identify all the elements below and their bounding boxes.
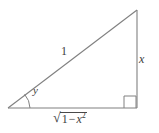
radicand-one: 1 [62, 112, 68, 126]
radicand-expression: 1−x2 [60, 112, 87, 127]
hypotenuse-label: 1 [61, 45, 67, 57]
right-angle-marker-icon [124, 96, 136, 108]
angle-arc [25, 94, 30, 108]
right-triangle-figure: 1 x y √ 1−x2 [0, 0, 159, 133]
triangle-hypotenuse-line [8, 10, 137, 108]
opposite-side-label: x [139, 53, 144, 65]
radical-sign-icon: √ [53, 111, 61, 125]
angle-label: y [33, 85, 38, 96]
radicand-exponent: 2 [82, 111, 86, 120]
adjacent-side-label: √ 1−x2 [53, 112, 87, 127]
